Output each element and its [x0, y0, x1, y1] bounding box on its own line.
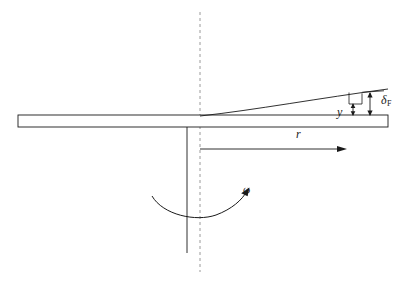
radius-dimension-arrowhead [337, 146, 347, 152]
deflection-curve [200, 89, 388, 116]
figure-root: r y δF ω [0, 0, 406, 285]
beam-rectangle [18, 115, 388, 127]
radius-label: r [296, 128, 301, 140]
tip-deflection-label: δF [381, 94, 391, 108]
delta-symbol: δ [381, 93, 387, 107]
delta-subscript: F [387, 99, 391, 108]
tip-deflection-arrowhead-top [367, 92, 372, 98]
angular-velocity-label: ω [243, 184, 250, 195]
local-deflection-label: y [337, 106, 342, 118]
diagram-canvas [0, 0, 406, 285]
